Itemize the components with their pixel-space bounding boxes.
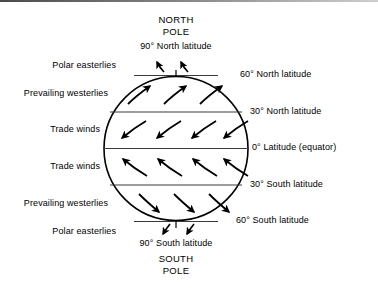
south-pole-label: SOUTH POLE: [136, 253, 216, 277]
wind-arrow: [181, 62, 188, 72]
latitude-label-60n: 60° North latitude: [240, 69, 311, 80]
wind-arrows-polar-easterlies-south: [163, 224, 194, 234]
belt-label-trade-winds-north: Trade winds: [4, 124, 100, 135]
wind-arrow: [163, 224, 170, 234]
belt-label-prevailing-westerlies-north: Prevailing westerlies: [0, 88, 108, 99]
latitude-label-90s: 90° South latitude: [116, 238, 236, 249]
latitude-label-30s: 30° South latitude: [250, 179, 323, 190]
wind-arrow: [157, 62, 164, 72]
wind-arrows-polar-easterlies-north: [157, 62, 188, 72]
belt-label-polar-easterlies-north: Polar easterlies: [4, 60, 116, 71]
latitude-label-equator: 0° Latitude (equator): [252, 142, 336, 153]
latitude-label-60s: 60° South latitude: [236, 215, 309, 226]
wind-arrow: [187, 224, 194, 234]
latitude-label-90n: 90° North latitude: [116, 41, 236, 52]
north-pole-label: NORTH POLE: [136, 14, 216, 38]
belt-label-polar-easterlies-south: Polar easterlies: [4, 226, 116, 237]
belt-label-trade-winds-south: Trade winds: [4, 161, 100, 172]
wind-belts-figure: NORTH POLE 90° North latitude 60° North …: [0, 0, 378, 296]
belt-label-prevailing-westerlies-south: Prevailing westerlies: [0, 198, 108, 209]
latitude-label-30n: 30° North latitude: [250, 106, 321, 117]
